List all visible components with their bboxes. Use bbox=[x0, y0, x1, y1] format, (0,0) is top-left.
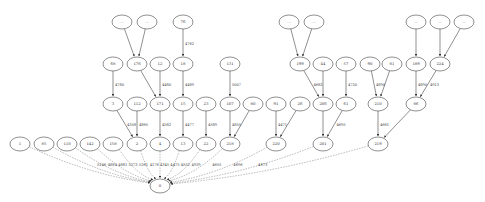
node-label: ... bbox=[312, 19, 316, 24]
graph-node[interactable]: 201 bbox=[313, 137, 333, 151]
edge: 4855 bbox=[230, 111, 242, 136]
graph-node[interactable]: 219 bbox=[368, 137, 388, 151]
edge-weight-label: 4477 bbox=[185, 123, 195, 127]
node-label: 85 bbox=[42, 141, 47, 146]
node-label: 15 bbox=[181, 101, 186, 106]
graph-node[interactable]: 18 bbox=[173, 57, 193, 71]
edge-weight-label: 4480 bbox=[162, 83, 172, 87]
graph-node[interactable]: 76 bbox=[173, 15, 193, 29]
graph-node[interactable]: 68 bbox=[103, 57, 123, 71]
graph-node[interactable]: 2 bbox=[127, 137, 147, 151]
edge: 4695 bbox=[327, 110, 346, 136]
edge bbox=[124, 29, 134, 56]
node-label: 81 bbox=[390, 61, 395, 66]
edge: 4477 bbox=[183, 111, 195, 136]
edge-line bbox=[124, 29, 134, 56]
node-label: 158 bbox=[109, 141, 117, 146]
graph-node[interactable]: 189 bbox=[406, 57, 426, 71]
graph-node[interactable]: 57 bbox=[336, 57, 356, 71]
collapsed-node[interactable]: ... bbox=[279, 15, 299, 29]
graph-node[interactable]: 15 bbox=[173, 97, 193, 111]
edge-weight-label: 4475 bbox=[170, 163, 180, 167]
edge: 4762 bbox=[183, 29, 194, 56]
edge-weight-label: 4762 bbox=[185, 42, 194, 46]
collapsed-node[interactable]: ... bbox=[430, 15, 450, 29]
graph-node[interactable]: 171 bbox=[150, 97, 170, 111]
edge bbox=[141, 70, 156, 96]
edge-weight-label: 5007 bbox=[232, 83, 242, 87]
graph-node[interactable]: 131 bbox=[220, 57, 240, 71]
graph-node[interactable]: 23 bbox=[196, 97, 216, 111]
graph-node[interactable]: 44 bbox=[313, 57, 333, 71]
edge: 4589 bbox=[206, 111, 218, 136]
node-label: 76 bbox=[181, 19, 186, 24]
edge-weight-label: 4682 bbox=[314, 83, 323, 87]
edge: 5007 bbox=[230, 71, 242, 96]
dependency-graph: 4762478044804489500746824720489048904913… bbox=[0, 0, 485, 202]
edge-line bbox=[291, 29, 298, 56]
node-label: 176 bbox=[133, 61, 141, 66]
graph-node[interactable]: 80 bbox=[243, 97, 263, 111]
node-label: 44 bbox=[321, 61, 326, 66]
graph-node[interactable]: 0 bbox=[150, 179, 170, 193]
edge-weight-label: 4696 bbox=[233, 163, 243, 167]
node-label: ... bbox=[438, 19, 442, 24]
edge-weight-label: 5146 bbox=[97, 163, 107, 167]
node-label: 206 bbox=[319, 101, 327, 106]
edge bbox=[444, 28, 460, 56]
node-label: 23 bbox=[204, 101, 209, 106]
collapsed-node[interactable]: ... bbox=[112, 15, 132, 29]
edge-weight-label: 4582 bbox=[162, 123, 171, 127]
node-label: 218 bbox=[226, 141, 234, 146]
edge-weight-label: 4695 bbox=[337, 123, 347, 127]
node-label: 131 bbox=[226, 61, 233, 66]
node-label: ... bbox=[145, 19, 149, 24]
graph-node[interactable]: 13 bbox=[173, 137, 193, 151]
graph-node[interactable]: 199 bbox=[290, 57, 310, 71]
graph-node[interactable]: 61 bbox=[336, 97, 356, 111]
edge: 4720 bbox=[346, 71, 358, 96]
graph-node[interactable]: 107 bbox=[220, 97, 240, 111]
graph-node[interactable]: 90 bbox=[360, 57, 380, 71]
node-label: 12 bbox=[158, 61, 163, 66]
graph-node[interactable]: 206 bbox=[313, 97, 333, 111]
graph-node[interactable]: 81 bbox=[382, 57, 402, 71]
edge-line bbox=[303, 29, 312, 56]
graph-node[interactable]: 112 bbox=[127, 97, 147, 111]
graph-node[interactable]: 3 bbox=[103, 97, 123, 111]
collapsed-node[interactable]: ... bbox=[137, 15, 157, 29]
graph-node[interactable]: 210 bbox=[368, 97, 388, 111]
graph-node[interactable]: 86 bbox=[406, 97, 426, 111]
collapsed-node[interactable]: ... bbox=[406, 15, 426, 29]
graph-node[interactable]: 176 bbox=[127, 57, 147, 71]
edge-weight-label: 4884 bbox=[108, 163, 118, 167]
graph-node[interactable]: 91 bbox=[266, 97, 286, 111]
node-label: 90 bbox=[368, 61, 373, 66]
graph-node[interactable]: 158 bbox=[103, 137, 123, 151]
collapsed-node[interactable]: ... bbox=[304, 15, 324, 29]
edge: 4358 bbox=[117, 110, 137, 136]
graph-node[interactable]: 224 bbox=[430, 57, 450, 71]
edge: 4682 bbox=[304, 70, 323, 96]
graph-node[interactable]: 12 bbox=[150, 57, 170, 71]
graph-node[interactable]: 110 bbox=[57, 137, 77, 151]
node-label: 201 bbox=[319, 141, 326, 146]
edge-weight-label: 4489 bbox=[185, 83, 195, 87]
edge-weight-label: 4589 bbox=[208, 123, 218, 127]
graph-node[interactable]: 142 bbox=[80, 137, 100, 151]
graph-node[interactable]: 1 bbox=[10, 137, 30, 151]
edge: 4865 bbox=[137, 111, 149, 136]
graph-node[interactable]: 218 bbox=[220, 137, 240, 151]
edge-weight-label: 4661 bbox=[380, 123, 389, 127]
edge-line bbox=[444, 28, 460, 56]
graph-node[interactable]: 26 bbox=[290, 97, 310, 111]
graph-node[interactable]: 85 bbox=[34, 137, 54, 151]
node-label: 224 bbox=[436, 61, 444, 66]
graph-node[interactable]: 22 bbox=[196, 137, 216, 151]
node-label: 57 bbox=[344, 61, 349, 66]
graph-node[interactable]: 220 bbox=[266, 137, 286, 151]
node-label: 18 bbox=[181, 61, 186, 66]
edge: 4780 bbox=[113, 71, 125, 96]
collapsed-node[interactable]: ... bbox=[454, 15, 474, 29]
graph-node[interactable]: 4 bbox=[150, 137, 170, 151]
